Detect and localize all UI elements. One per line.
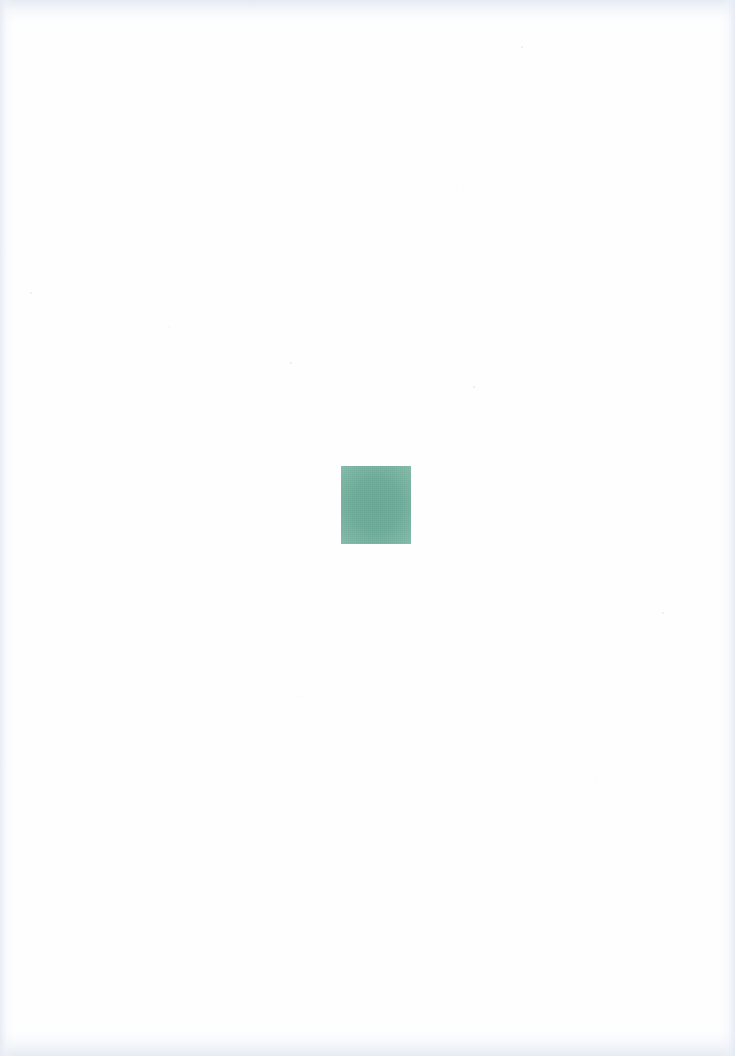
scan-speck bbox=[30, 292, 32, 294]
scan-vignette-bottom-edge bbox=[0, 1026, 735, 1056]
scan-vignette-left-edge bbox=[0, 0, 14, 1056]
scanned-page-canvas bbox=[0, 0, 735, 1056]
scan-speck bbox=[290, 362, 292, 364]
green-color-swatch bbox=[341, 466, 411, 544]
swatch-edge-softener bbox=[340, 465, 412, 545]
scan-speck bbox=[473, 386, 475, 388]
scan-vignette-right-edge bbox=[719, 0, 735, 1056]
scan-speck bbox=[662, 612, 664, 614]
swatch-ink-grain bbox=[341, 466, 411, 544]
scan-speck bbox=[521, 46, 523, 48]
scan-vignette-top-edge bbox=[0, 0, 735, 26]
